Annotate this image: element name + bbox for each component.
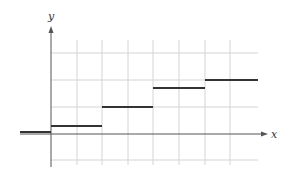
axes — [20, 26, 268, 167]
y-axis-label: y — [47, 10, 55, 23]
y-axis-arrow-icon — [49, 26, 54, 33]
grid-lines — [51, 40, 258, 165]
x-axis-arrow-icon — [261, 132, 268, 137]
step-segments — [20, 80, 258, 132]
plot-area: x y — [0, 0, 292, 181]
x-axis-label: x — [271, 128, 278, 141]
step-function-graph: x y — [0, 0, 292, 181]
